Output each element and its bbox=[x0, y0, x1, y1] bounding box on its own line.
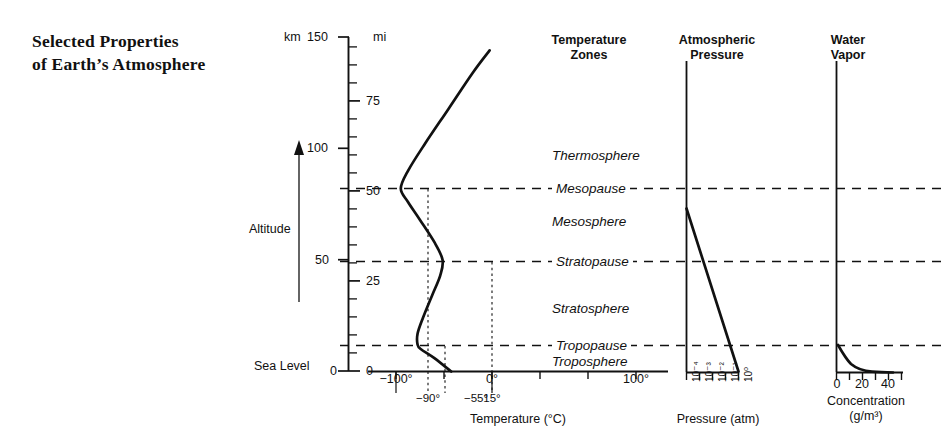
water-vapor-caption-line-2: (g/m³) bbox=[798, 409, 934, 424]
water-vapor-tick-label-0: 0 bbox=[824, 377, 850, 391]
pressure-tick-label-1e0: 10⁰ bbox=[743, 367, 754, 382]
km-tick-label-50: 50 bbox=[315, 253, 329, 267]
zone-mesopause: Mesopause bbox=[552, 181, 630, 196]
zone-troposphere: Troposphere bbox=[552, 354, 628, 369]
pressure-tick-label-1e-1: 10⁻¹ bbox=[730, 362, 741, 382]
mi-tick-marks bbox=[349, 47, 357, 353]
water-vapor-caption-line-1: Concentration bbox=[798, 394, 934, 409]
temperature-panel-header: Temperature Zones bbox=[524, 33, 654, 63]
km-tick-label-150: 150 bbox=[307, 30, 328, 44]
temperature-tick-label-minus100: −100° bbox=[366, 372, 426, 386]
temperature-curve-main bbox=[401, 50, 490, 371]
temperature-header-line-1: Temperature bbox=[524, 33, 654, 48]
pressure-axis bbox=[686, 61, 739, 373]
sea-level-label: Sea Level bbox=[254, 359, 310, 373]
zone-mesosphere: Mesosphere bbox=[552, 214, 626, 229]
water-vapor-panel-header: Water Vapor bbox=[811, 33, 885, 63]
zone-stratopause: Stratopause bbox=[552, 254, 633, 269]
km-tick-marks bbox=[338, 37, 349, 371]
km-tick-label-0: 0 bbox=[330, 364, 337, 378]
temperature-tick-label-0: 0° bbox=[470, 372, 514, 386]
pressure-header-line-1: Atmospheric bbox=[661, 33, 773, 48]
zone-stratosphere: Stratosphere bbox=[552, 301, 629, 316]
water-vapor-tick-label-20: 20 bbox=[849, 377, 875, 391]
water-vapor-axis bbox=[836, 61, 903, 373]
mi-unit-label: mi bbox=[373, 30, 386, 44]
km-unit-label: km bbox=[284, 30, 301, 44]
mi-tick-label-25: 25 bbox=[366, 274, 380, 288]
temperature-tick-label-100: 100° bbox=[604, 372, 668, 386]
mi-major-tick-marks bbox=[349, 101, 360, 371]
km-tick-label-100: 100 bbox=[307, 141, 328, 155]
pressure-header-line-2: Pressure bbox=[661, 48, 773, 63]
water-vapor-tick-label-40: 40 bbox=[875, 377, 901, 391]
mi-tick-label-75: 75 bbox=[366, 94, 380, 108]
temperature-caption: Temperature (°C) bbox=[438, 412, 598, 426]
water-vapor-caption: Concentration (g/m³) bbox=[798, 394, 934, 424]
altitude-arrow bbox=[294, 140, 304, 302]
pressure-tick-label-1e-2: 10⁻² bbox=[717, 362, 728, 382]
zone-tropopause: Tropopause bbox=[552, 338, 631, 353]
altitude-label: Altitude bbox=[249, 222, 291, 236]
water-vapor-header-line-2: Vapor bbox=[811, 48, 885, 63]
pressure-caption: Pressure (atm) bbox=[653, 412, 783, 426]
zone-thermosphere: Thermosphere bbox=[552, 148, 640, 163]
atmosphere-diagram: Selected Properties of Earth’s Atmospher… bbox=[0, 0, 947, 434]
pressure-panel-header: Atmospheric Pressure bbox=[661, 33, 773, 63]
pressure-curve bbox=[687, 209, 739, 372]
water-vapor-curve bbox=[838, 345, 893, 373]
pressure-tick-label-1e-3: 10⁻³ bbox=[704, 362, 715, 382]
water-vapor-header-line-1: Water bbox=[811, 33, 885, 48]
pressure-tick-label-1e-4: 10⁻⁴ bbox=[691, 361, 702, 382]
temperature-header-line-2: Zones bbox=[524, 48, 654, 63]
mi-tick-label-50: 50 bbox=[366, 184, 380, 198]
diagram-canvas bbox=[0, 0, 947, 434]
temperature-ref-label-15: 15° bbox=[466, 392, 518, 404]
